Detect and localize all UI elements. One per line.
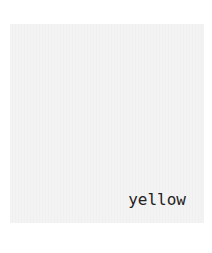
color-swatch: yellow xyxy=(10,24,204,223)
swatch-label: yellow xyxy=(128,190,186,209)
